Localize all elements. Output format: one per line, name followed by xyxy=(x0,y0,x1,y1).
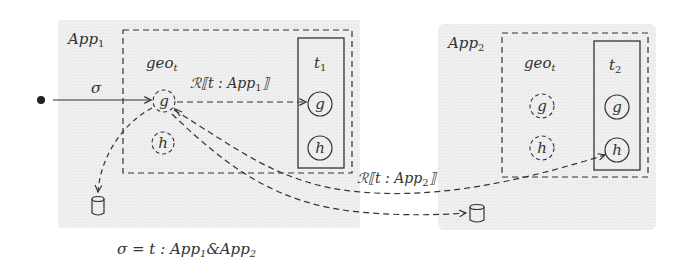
sigma-edge-label: σ xyxy=(91,79,102,97)
node-label: h xyxy=(612,141,622,159)
app1-region: App1 geot g h t1 g h xyxy=(58,20,360,228)
start-node xyxy=(37,96,45,104)
edge-g-to-t2h-label: ℛ⟦t : App2⟧ xyxy=(357,170,438,188)
caption: σ = t : App1&App2 xyxy=(117,240,256,259)
node-label: h xyxy=(158,134,168,152)
app1-background xyxy=(58,20,360,228)
node-label: g xyxy=(315,95,325,113)
node-label: h xyxy=(315,139,325,157)
app2-region: App2 geot g h t2 g h xyxy=(438,24,656,230)
diagram-canvas: App1 geot g h t1 g h App2 geot xyxy=(0,0,689,268)
node-label: h xyxy=(537,139,547,157)
node-label: g xyxy=(159,92,169,110)
node-label: g xyxy=(612,98,622,116)
node-label: g xyxy=(537,97,547,115)
